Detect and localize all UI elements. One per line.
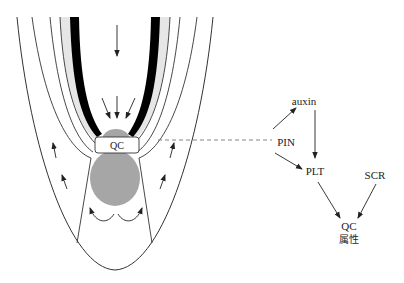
regulatory-network: PIN auxin PLT SCR QC 属性 (273, 95, 386, 245)
auxin-flow-arrow (102, 98, 110, 118)
node-plt: PLT (306, 165, 325, 177)
node-pin: PIN (277, 136, 295, 148)
node-qc-property: 属性 (339, 233, 359, 245)
auxin-flow-arrow (126, 98, 135, 118)
lateral-redistribution-arrow (90, 208, 114, 221)
node-qc: QC (341, 220, 356, 232)
root-tip: QC (17, 17, 213, 270)
auxin-reflux-arrow (62, 175, 67, 189)
node-scr: SCR (365, 169, 386, 181)
columella-boundary (77, 158, 91, 243)
edge-pin-auxin (273, 108, 296, 129)
qc-label: QC (110, 140, 124, 151)
auxin-reflux-arrow (160, 175, 165, 189)
node-auxin: auxin (292, 95, 317, 107)
edge-scr-qc (358, 184, 376, 218)
columella-boundary (139, 158, 152, 243)
stele-band (128, 17, 160, 137)
auxin-reflux-arrow (53, 143, 56, 158)
root-tip-auxin-diagram: QC PIN auxin PLT SCR QC 属性 (0, 0, 404, 283)
stele-band (70, 17, 102, 137)
auxin-reflux-arrow (170, 143, 174, 158)
edge-plt-qc (318, 182, 340, 218)
lateral-redistribution-arrow (118, 208, 142, 221)
edge-pin-plt (275, 153, 302, 169)
columella-stem-cells (90, 150, 140, 206)
